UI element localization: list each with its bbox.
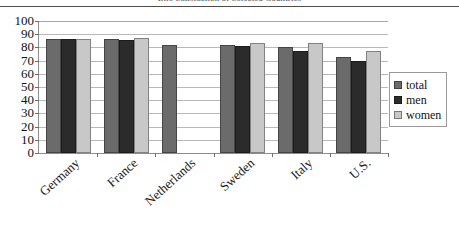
bar-chart: 1009080706050403020100 GermanyFranceNeth… <box>0 10 459 243</box>
bar-sweden-women <box>250 43 265 153</box>
y-axis-tick <box>35 127 39 128</box>
y-axis-tick <box>35 100 39 101</box>
bar-france-women <box>134 38 149 153</box>
y-axis-tick <box>35 87 39 88</box>
gridline <box>39 34 388 35</box>
chart-title: Life Satisfaction of Selected Countries <box>0 0 459 3</box>
legend-item-women: women <box>394 107 441 122</box>
legend-swatch-icon <box>394 96 402 104</box>
y-axis-tick-label: 80 <box>21 40 34 53</box>
legend-item-total: total <box>394 77 441 92</box>
plot-area <box>38 21 388 154</box>
legend-item-label: men <box>406 94 427 106</box>
y-axis-tick-label: 50 <box>21 80 34 93</box>
y-axis-tick-label: 90 <box>21 27 34 40</box>
bar-us-total <box>336 57 351 153</box>
y-axis-tick <box>35 153 39 154</box>
y-axis-tick <box>35 61 39 62</box>
y-axis-tick <box>35 21 39 22</box>
bar-italy-total <box>278 47 293 153</box>
bar-france-total <box>104 39 119 153</box>
legend-swatch-icon <box>394 81 402 89</box>
bar-us-men <box>351 61 366 153</box>
legend-item-men: men <box>394 92 441 107</box>
y-axis-tick-label: 60 <box>21 67 34 80</box>
y-axis-tick <box>35 47 39 48</box>
y-axis-tick <box>35 74 39 75</box>
title-divider <box>0 6 459 7</box>
legend-item-label: total <box>406 79 427 91</box>
bar-germany-men <box>61 39 76 153</box>
y-axis-tick-label: 100 <box>15 14 35 27</box>
y-axis-tick <box>35 113 39 114</box>
bar-germany-women <box>76 39 91 153</box>
chart-legend: totalmenwomen <box>389 72 447 127</box>
y-axis-tick-labels: 1009080706050403020100 <box>0 10 36 165</box>
y-axis-tick <box>35 140 39 141</box>
bar-sweden-men <box>235 46 250 153</box>
y-axis-tick <box>35 34 39 35</box>
bar-france-men <box>119 40 134 153</box>
bar-germany-total <box>46 39 61 153</box>
bar-italy-men <box>293 51 308 153</box>
y-axis-tick-label: 20 <box>21 120 34 133</box>
y-axis-tick-label: 70 <box>21 54 34 67</box>
y-axis-tick-label: 30 <box>21 106 34 119</box>
bar-us-women <box>366 51 381 153</box>
gridline <box>39 21 388 22</box>
x-axis-tick <box>388 153 389 157</box>
bar-netherlands-total <box>162 45 177 153</box>
y-axis-tick-label: 10 <box>21 133 34 146</box>
x-axis-label-germany: Germany <box>0 156 82 243</box>
legend-item-label: women <box>406 109 441 121</box>
y-axis-tick-label: 0 <box>28 146 35 159</box>
legend-swatch-icon <box>394 111 402 119</box>
bar-sweden-total <box>220 45 235 153</box>
x-axis-category-labels: GermanyFranceNetherlandsSwedenItalyU.S. <box>38 156 387 243</box>
y-axis-tick-label: 40 <box>21 93 34 106</box>
gridline <box>39 47 388 48</box>
bar-italy-women <box>308 43 323 153</box>
